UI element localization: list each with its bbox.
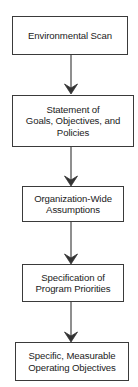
node-label: Policies [57,127,89,139]
node-environmental-scan: Environmental Scan [12,16,128,55]
node-statement-of-goals: Statement of Goals, Objectives, and Poli… [12,95,134,147]
node-label: Operating Objectives [28,362,116,374]
node-label: Assumptions [46,204,100,216]
arrow-down-icon [65,54,78,94]
node-label: Specification of [41,272,104,284]
arrow-down-icon [65,146,78,186]
node-operating-objectives: Specific, Measurable Operating Objective… [15,342,129,381]
node-label: Goals, Objectives, and [26,115,120,127]
node-organization-wide-assumptions: Organization-Wide Assumptions [22,186,124,222]
arrow-down-icon [65,221,78,264]
node-label: Statement of [46,104,99,116]
node-label: Environmental Scan [28,30,112,42]
node-label: Program Priorities [36,283,111,295]
node-specification-of-priorities: Specification of Program Priorities [22,264,124,302]
node-label: Specific, Measurable [28,350,115,362]
arrow-down-icon [65,301,78,342]
node-label: Organization-Wide [34,193,112,205]
